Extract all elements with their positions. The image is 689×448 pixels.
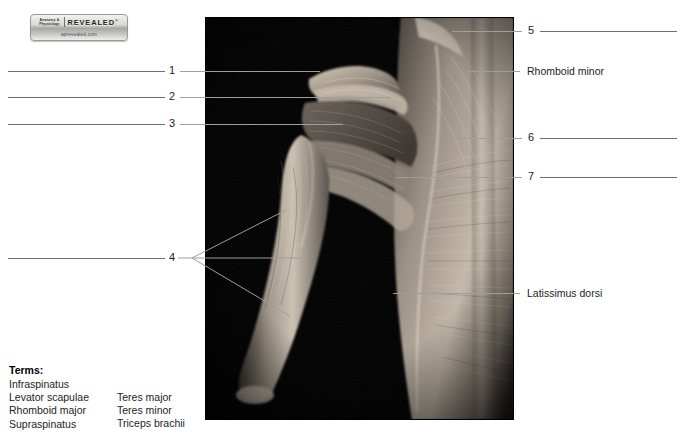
answer-line-2[interactable]	[8, 97, 165, 98]
logo-brand-line-2: Physiology	[39, 22, 59, 26]
label-number-2: 2	[169, 91, 175, 102]
term-item[interactable]: Triceps brachii	[117, 417, 219, 430]
leader-line-2	[180, 97, 391, 98]
label-number-6: 6	[528, 132, 534, 143]
label-number-4: 4	[169, 252, 175, 263]
term-item[interactable]: Supraspinatus	[9, 418, 117, 431]
label-number-7: 7	[528, 171, 534, 182]
answer-line-5[interactable]	[540, 31, 677, 32]
term-item[interactable]: Levator scapulae	[9, 391, 117, 404]
answer-line-7[interactable]	[540, 177, 677, 178]
worksheet-page: Anatomy & Physiology REVEALED® apreveale…	[0, 0, 689, 448]
leader-line-latissimus-dorsi	[393, 293, 520, 294]
leader-line-1	[180, 71, 320, 72]
term-item[interactable]: Infraspinatus	[9, 378, 117, 391]
label-number-1: 1	[169, 65, 175, 76]
label-latissimus-dorsi: Latissimus dorsi	[527, 287, 602, 299]
leader-lines-4	[178, 198, 308, 323]
terms-column-2: Teres major Teres minor Triceps brachii	[117, 378, 219, 431]
label-rhomboid-minor: Rhomboid minor	[527, 65, 604, 77]
logo-divider	[64, 17, 65, 27]
logo-trademark-icon: ®	[115, 18, 119, 23]
terms-columns: Infraspinatus Levator scapulae Rhomboid …	[9, 378, 219, 431]
leader-line-7	[396, 177, 522, 178]
logo-brand-text: Anatomy & Physiology	[39, 18, 62, 26]
logo-url-text: aprevealed.com	[31, 32, 127, 37]
term-item[interactable]: Teres major	[117, 391, 219, 404]
aprevealed-logo: Anatomy & Physiology REVEALED® apreveale…	[30, 14, 128, 41]
terms-word-bank: Terms: Infraspinatus Levator scapulae Rh…	[9, 364, 219, 431]
terms-column-1: Infraspinatus Levator scapulae Rhomboid …	[9, 378, 117, 431]
answer-line-6[interactable]	[540, 138, 677, 139]
term-item[interactable]: Rhomboid major	[9, 404, 117, 417]
leader-line-6	[455, 138, 522, 139]
label-number-5: 5	[528, 25, 534, 36]
answer-line-1[interactable]	[8, 71, 165, 72]
answer-line-4[interactable]	[8, 258, 165, 259]
terms-heading: Terms:	[9, 364, 219, 377]
term-item[interactable]: Teres minor	[117, 404, 219, 417]
leader-line-rhomboid-minor	[468, 71, 520, 72]
leader-line-3	[180, 124, 343, 125]
leader-line-5	[452, 31, 522, 32]
label-number-3: 3	[169, 118, 175, 129]
logo-revealed-text: REVEALED®	[67, 17, 118, 27]
logo-wordmark-row: Anatomy & Physiology REVEALED®	[31, 17, 127, 27]
answer-line-3[interactable]	[8, 124, 165, 125]
